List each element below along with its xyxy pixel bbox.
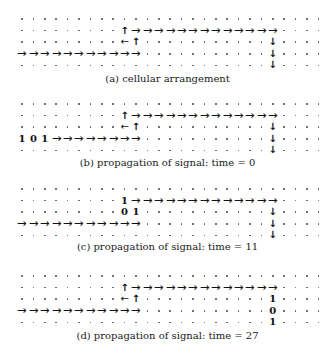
grid-dot: [233, 271, 244, 282]
grid-dot: [256, 207, 267, 218]
arrow-right-icon: →: [200, 25, 210, 36]
grid-cell-arrow: ↑: [119, 282, 130, 293]
grid-dot: [256, 294, 267, 305]
grid-dot: [256, 122, 267, 133]
dot-icon: [295, 115, 297, 117]
arrow-right-icon: →: [143, 195, 153, 206]
dot-icon: [21, 298, 23, 300]
dot-icon: [78, 18, 80, 20]
panel-caption: (b) propagation of signal: time = 0: [0, 157, 335, 168]
grid-cell-arrow: →: [119, 133, 130, 144]
arrow-right-icon: →: [222, 25, 232, 36]
grid-dot: [85, 25, 96, 36]
dot-icon: [135, 235, 137, 237]
grid-dot: [85, 122, 96, 133]
dot-icon: [181, 322, 183, 324]
dot-icon: [295, 310, 297, 312]
dot-icon: [112, 41, 114, 43]
grid-dot: [165, 230, 176, 241]
grid-dot: [153, 305, 164, 316]
dot-icon: [112, 65, 114, 67]
dot-icon: [306, 211, 308, 213]
dot-icon: [158, 53, 160, 55]
grid-dot: [302, 14, 313, 25]
grid-dot: [142, 317, 153, 328]
grid-cell-arrow: →: [233, 195, 244, 206]
grid-dot: [28, 25, 39, 36]
grid-dot: [28, 271, 39, 282]
arrow-down-icon: ↓: [269, 145, 277, 155]
grid-cell-arrow: →: [74, 48, 85, 59]
grid-dot: [108, 145, 119, 156]
dot-icon: [44, 188, 46, 190]
dot-icon: [283, 150, 285, 152]
grid-dot: [199, 122, 210, 133]
arrow-right-icon: →: [97, 133, 107, 144]
grid-dot: [119, 230, 130, 241]
dot-icon: [261, 126, 263, 128]
grid-cell-arrow: ↓: [267, 48, 278, 59]
grid-dot: [131, 184, 142, 195]
grid-dot: [74, 37, 85, 48]
grid-dot: [290, 25, 301, 36]
dot-icon: [169, 103, 171, 105]
grid-dot: [233, 230, 244, 241]
dot-icon: [261, 322, 263, 324]
grid-dot: [51, 14, 62, 25]
grid-cell-arrow: →: [39, 48, 50, 59]
grid-dot: [165, 271, 176, 282]
dot-icon: [238, 235, 240, 237]
dot-icon: [90, 18, 92, 20]
grid-cell-arrow: →: [108, 133, 119, 144]
arrow-right-icon: →: [165, 195, 175, 206]
grid-dot: [290, 230, 301, 241]
arrow-right-icon: →: [29, 218, 39, 229]
grid-dot: [17, 294, 28, 305]
dot-icon: [90, 200, 92, 202]
grid-dot: [153, 133, 164, 144]
dot-icon: [215, 275, 217, 277]
grid-dot: [62, 145, 73, 156]
grid-cell-arrow: →: [119, 305, 130, 316]
grid-dot: [222, 305, 233, 316]
arrow-left-icon: ←: [120, 37, 128, 47]
grid-dot: [74, 207, 85, 218]
grid-dot: [210, 37, 221, 48]
grid-dot: [131, 60, 142, 71]
dot-icon: [238, 103, 240, 105]
dot-icon: [147, 310, 149, 312]
dot-icon: [78, 115, 80, 117]
dot-icon: [158, 18, 160, 20]
grid-cell-arrow: →: [17, 305, 28, 316]
dot-icon: [78, 150, 80, 152]
dot-icon: [261, 223, 263, 225]
grid-dot: [233, 122, 244, 133]
dot-icon: [318, 65, 320, 67]
grid-cell-arrow: →: [51, 133, 62, 144]
dot-icon: [238, 275, 240, 277]
grid-dot: [290, 218, 301, 229]
grid-cell-arrow: →: [233, 110, 244, 121]
dot-icon: [215, 103, 217, 105]
grid-cell-arrow: →: [233, 282, 244, 293]
grid-dot: [51, 271, 62, 282]
grid-dot: [17, 37, 28, 48]
dot-icon: [283, 138, 285, 140]
signal-bit-value: 1: [133, 207, 140, 217]
dot-icon: [21, 275, 23, 277]
grid-cell-arrow: →: [142, 282, 153, 293]
dot-icon: [55, 235, 57, 237]
grid-dot: [96, 294, 107, 305]
dot-icon: [295, 188, 297, 190]
grid-dot: [245, 133, 256, 144]
dot-icon: [249, 150, 251, 152]
dot-icon: [318, 115, 320, 117]
dot-icon: [21, 18, 23, 20]
signal-bit-value: 1: [41, 134, 48, 144]
dot-icon: [215, 65, 217, 67]
grid-dot: [256, 133, 267, 144]
dot-icon: [295, 65, 297, 67]
arrow-right-icon: →: [234, 25, 244, 36]
grid-dot: [290, 48, 301, 59]
dot-icon: [249, 310, 251, 312]
